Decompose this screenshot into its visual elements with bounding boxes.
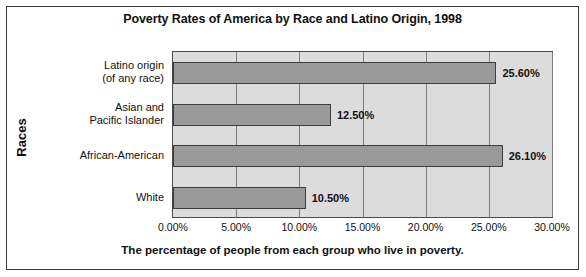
bar (173, 104, 331, 126)
x-axis-tick-labels: 0.00%5.00%10.00%15.00%20.00%25.00%30.00% (172, 221, 553, 237)
x-axis-tick-label: 5.00% (221, 221, 251, 233)
y-axis-tick-label: African-American (40, 149, 164, 162)
x-axis-tick-label: 15.00% (345, 221, 381, 233)
gridline (552, 52, 553, 217)
bar (173, 62, 496, 84)
bar (173, 145, 503, 167)
bar-value-label: 10.50% (312, 187, 349, 209)
y-axis-tick-labels: Latino origin(of any race)Asian andPacif… (40, 51, 168, 218)
bar-value-label: 25.60% (502, 62, 539, 84)
bar-value-label: 26.10% (509, 145, 546, 167)
chart-title: Poverty Rates of America by Race and Lat… (6, 12, 579, 26)
y-axis-title: Races (14, 108, 29, 168)
chart-screenshot: Poverty Rates of America by Race and Lat… (0, 0, 586, 277)
x-axis-tick-label: 0.00% (158, 221, 188, 233)
x-axis-title: The percentage of people from each group… (6, 244, 579, 256)
y-axis-tick-label: Asian andPacific Islander (40, 101, 164, 127)
bars: 25.60%12.50%26.10%10.50% (173, 52, 552, 217)
x-axis-tick-label: 20.00% (408, 221, 444, 233)
x-axis-tick-label: 10.00% (282, 221, 318, 233)
x-axis-tick-label: 30.00% (534, 221, 570, 233)
x-axis-tick-label: 25.00% (471, 221, 507, 233)
bar (173, 187, 306, 209)
plot-area: 25.60%12.50%26.10%10.50% (172, 51, 553, 218)
y-axis-tick-label: White (40, 191, 164, 204)
y-axis-tick-label: Latino origin(of any race) (40, 59, 164, 85)
bar-value-label: 12.50% (337, 104, 374, 126)
